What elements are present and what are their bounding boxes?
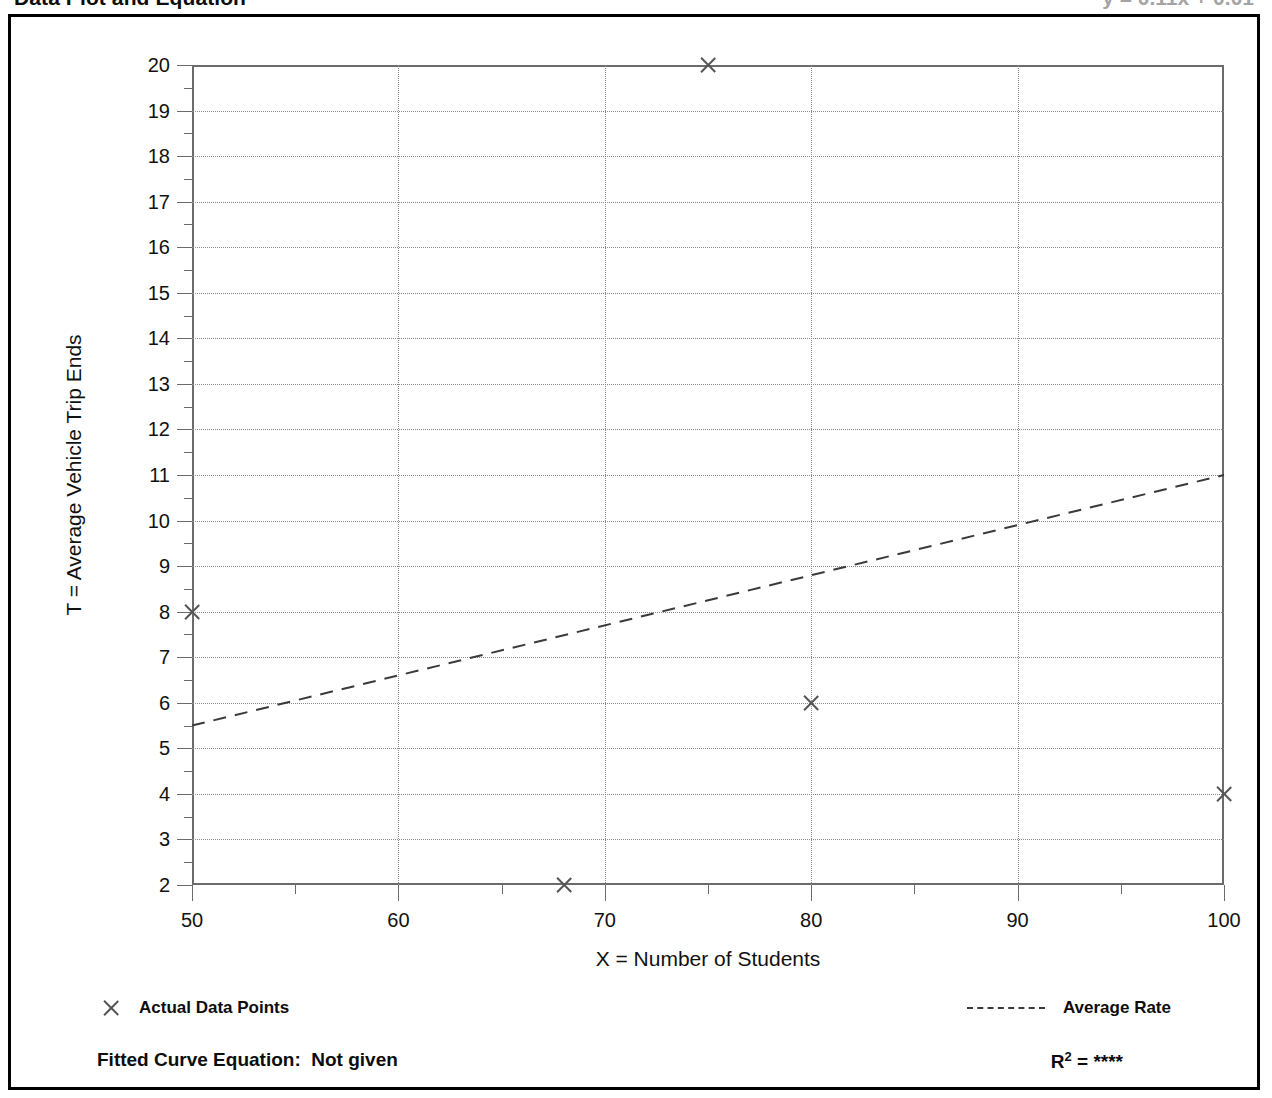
y-tick-major — [177, 247, 192, 248]
x-tick-minor — [1121, 885, 1122, 894]
y-tick-minor — [184, 543, 192, 544]
y-tick-major — [177, 65, 192, 66]
fitted-curve-equation: Fitted Curve Equation: Not given — [97, 1049, 398, 1071]
y-tick-label: 16 — [148, 236, 170, 259]
x-tick-minor — [708, 885, 709, 894]
y-tick-label: 20 — [148, 54, 170, 77]
figure-frame: T = Average Vehicle Trip Ends 2345678910… — [8, 14, 1260, 1090]
y-tick-major — [177, 156, 192, 157]
y-tick-minor — [184, 862, 192, 863]
r-squared-value: R2 = **** — [1051, 1049, 1123, 1073]
x-tick-minor — [295, 885, 296, 894]
r-squared-equals: = — [1072, 1051, 1094, 1072]
legend-item-average-rate: Average Rate — [967, 998, 1171, 1018]
y-tick-major — [177, 338, 192, 339]
y-tick-minor — [184, 634, 192, 635]
y-tick-major — [177, 703, 192, 704]
x-tick-major — [192, 885, 193, 901]
x-tick-minor — [502, 885, 503, 894]
y-tick-major — [177, 293, 192, 294]
y-tick-minor — [184, 361, 192, 362]
figure-footer: Fitted Curve Equation: Not given R2 = **… — [11, 1049, 1263, 1089]
legend-label-actual: Actual Data Points — [139, 998, 289, 1018]
y-tick-label: 9 — [159, 555, 170, 578]
x-tick-label: 70 — [594, 909, 616, 932]
y-tick-label: 3 — [159, 828, 170, 851]
y-tick-major — [177, 111, 192, 112]
trend-line-series — [192, 65, 1224, 885]
x-axis-title-text: X = Number of Students — [596, 947, 821, 970]
y-tick-label: 8 — [159, 600, 170, 623]
x-tick-major — [605, 885, 606, 901]
y-tick-major — [177, 566, 192, 567]
y-tick-minor — [184, 680, 192, 681]
y-tick-minor — [184, 133, 192, 134]
y-tick-major — [177, 475, 192, 476]
chart-legend: Actual Data Points Average Rate — [11, 992, 1263, 1038]
y-tick-major — [177, 794, 192, 795]
y-tick-minor — [184, 726, 192, 727]
y-tick-major — [177, 521, 192, 522]
y-tick-minor — [184, 771, 192, 772]
y-tick-minor — [184, 452, 192, 453]
dashed-line-icon — [967, 1007, 1045, 1009]
r-squared-exponent: 2 — [1065, 1049, 1072, 1064]
x-axis-title: X = Number of Students — [192, 947, 1224, 971]
y-tick-label: 5 — [159, 737, 170, 760]
x-marker-icon — [101, 998, 121, 1018]
average-rate-line — [192, 475, 1224, 726]
y-tick-label: 13 — [148, 372, 170, 395]
y-tick-label: 6 — [159, 691, 170, 714]
page-header-right: y = 0.11x + 0.01 — [1102, 0, 1254, 10]
y-tick-minor — [184, 88, 192, 89]
y-tick-label: 11 — [149, 464, 170, 487]
legend-item-actual-data-points: Actual Data Points — [101, 998, 289, 1018]
y-tick-label: 4 — [159, 782, 170, 805]
y-tick-minor — [184, 817, 192, 818]
y-tick-minor — [184, 407, 192, 408]
y-tick-major — [177, 612, 192, 613]
y-tick-label: 17 — [148, 190, 170, 213]
page-title: Data Plot and Equation — [14, 0, 246, 10]
y-tick-label: 14 — [148, 327, 170, 350]
y-tick-label: 7 — [159, 646, 170, 669]
x-tick-major — [1224, 885, 1225, 901]
x-tick-major — [811, 885, 812, 901]
y-tick-label: 19 — [148, 99, 170, 122]
x-tick-label: 80 — [800, 909, 822, 932]
y-axis-title-text: T = Average Vehicle Trip Ends — [62, 334, 86, 615]
x-tick-label: 50 — [181, 909, 203, 932]
x-tick-minor — [914, 885, 915, 894]
plot-area: 2345678910111213141516171819205060708090… — [192, 65, 1224, 885]
r-squared-stars: **** — [1093, 1051, 1123, 1072]
legend-label-rate: Average Rate — [1063, 998, 1171, 1018]
y-tick-label: 12 — [148, 418, 170, 441]
y-tick-major — [177, 748, 192, 749]
y-tick-label: 10 — [148, 509, 170, 532]
y-tick-major — [177, 429, 192, 430]
x-tick-label: 60 — [387, 909, 409, 932]
y-tick-minor — [184, 179, 192, 180]
y-tick-major — [177, 384, 192, 385]
y-tick-label: 15 — [148, 281, 170, 304]
x-tick-label: 100 — [1207, 909, 1240, 932]
x-tick-major — [1018, 885, 1019, 901]
y-tick-major — [177, 885, 192, 886]
y-axis-title: T = Average Vehicle Trip Ends — [59, 65, 89, 885]
page-header: Data Plot and Equation y = 0.11x + 0.01 — [0, 0, 1272, 14]
y-tick-minor — [184, 270, 192, 271]
y-tick-minor — [184, 589, 192, 590]
y-tick-minor — [184, 224, 192, 225]
x-tick-major — [398, 885, 399, 901]
y-tick-major — [177, 657, 192, 658]
r-squared-symbol: R — [1051, 1051, 1065, 1072]
y-tick-minor — [184, 498, 192, 499]
y-tick-label: 18 — [148, 145, 170, 168]
x-tick-label: 90 — [1006, 909, 1028, 932]
y-tick-label: 2 — [159, 874, 170, 897]
y-tick-major — [177, 839, 192, 840]
y-tick-minor — [184, 316, 192, 317]
y-tick-major — [177, 202, 192, 203]
